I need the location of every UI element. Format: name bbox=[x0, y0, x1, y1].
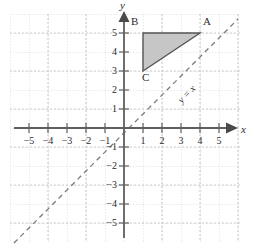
vertex-label-b: B bbox=[131, 16, 138, 27]
x-tick-label--2: −2 bbox=[76, 136, 96, 146]
x-tick-label--5: −5 bbox=[19, 136, 39, 146]
graph-canvas bbox=[0, 0, 254, 252]
vertex-label-c: C bbox=[142, 72, 149, 83]
x-tick-label-5: 5 bbox=[209, 136, 229, 146]
y-axis-label: y bbox=[120, 0, 125, 11]
y-tick-label--5: −5 bbox=[101, 218, 117, 228]
x-tick-label-1: 1 bbox=[133, 136, 153, 146]
x-tick-label--3: −3 bbox=[57, 136, 77, 146]
y-tick-label--3: −3 bbox=[101, 180, 117, 190]
y-tick-label-2: 2 bbox=[104, 85, 117, 95]
coordinate-plane-figure: −5 −4 −3 −2 −1 1 2 3 4 5 5 4 3 2 1 −1 −2… bbox=[0, 0, 254, 252]
x-tick-label-3: 3 bbox=[171, 136, 191, 146]
vertex-label-a: A bbox=[203, 16, 211, 27]
x-axis-label: x bbox=[241, 124, 246, 135]
y-tick-label--2: −2 bbox=[101, 161, 117, 171]
y-tick-label--1: −1 bbox=[101, 142, 117, 152]
x-tick-label-4: 4 bbox=[190, 136, 210, 146]
y-tick-label-5: 5 bbox=[104, 28, 117, 38]
x-tick-label-2: 2 bbox=[152, 136, 172, 146]
x-tick-label--4: −4 bbox=[38, 136, 58, 146]
y-tick-label-3: 3 bbox=[104, 66, 117, 76]
y-tick-label-1: 1 bbox=[104, 104, 117, 114]
y-tick-label--4: −4 bbox=[101, 199, 117, 209]
y-tick-label-4: 4 bbox=[104, 47, 117, 57]
